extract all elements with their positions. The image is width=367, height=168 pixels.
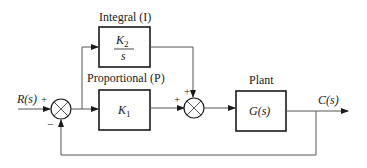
error-sum-plus-sign: + (41, 93, 47, 105)
plant-caption: Plant (249, 73, 274, 87)
proportional-caption: Proportional (P) (87, 71, 165, 85)
plant-transfer-function: G(s) (249, 104, 270, 118)
controller-sum-top-plus: + (184, 85, 190, 97)
output-label: C(s) (318, 93, 339, 107)
block-diagram: R(s) + − Integral (I) K2 s Proportional … (0, 0, 367, 168)
integral-caption: Integral (I) (99, 10, 151, 24)
controller-sum-left-plus: + (174, 93, 180, 105)
error-summing-junction (51, 99, 71, 119)
input-label: R(s) (16, 92, 37, 106)
error-sum-minus-sign: − (47, 118, 53, 130)
controller-summing-junction (184, 98, 204, 118)
integral-denominator: s (121, 49, 126, 63)
